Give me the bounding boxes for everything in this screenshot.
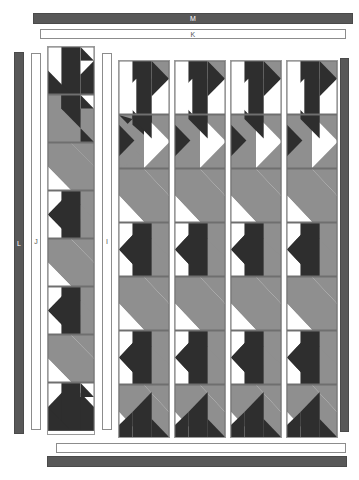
border-label-m: M <box>190 15 196 22</box>
block-cell[interactable] <box>231 61 281 115</box>
flying-geese-arrow-icon <box>287 277 337 330</box>
border-strip-j[interactable]: J <box>31 53 41 430</box>
block-cell[interactable] <box>48 287 94 335</box>
block-cell[interactable] <box>175 331 225 385</box>
block-cell[interactable] <box>48 191 94 239</box>
flying-geese-arrow-icon <box>287 385 337 438</box>
flying-geese-arrow-icon <box>175 115 225 168</box>
narrow-block-column[interactable] <box>47 46 95 435</box>
flying-geese-arrow-icon <box>119 115 169 168</box>
block-cell[interactable] <box>287 385 337 438</box>
block-cell[interactable] <box>119 331 169 385</box>
flying-geese-arrow-icon <box>119 169 169 222</box>
flying-geese-arrow-icon <box>175 385 225 438</box>
border-strip-i[interactable]: I <box>102 53 112 430</box>
flying-geese-arrow-icon <box>119 331 169 384</box>
block-medium-arrow-icon <box>48 143 94 190</box>
block-column-4[interactable] <box>286 60 338 438</box>
block-dark-arrow-left-icon <box>48 287 94 334</box>
block-medium-arrow-icon <box>48 239 94 286</box>
border-strip-m[interactable]: M <box>33 13 353 24</box>
flying-geese-arrow-icon <box>231 223 281 276</box>
flying-geese-arrow-icon <box>119 277 169 330</box>
flying-geese-arrow-icon <box>231 277 281 330</box>
flying-geese-arrow-icon <box>119 385 169 438</box>
block-cell[interactable] <box>287 331 337 385</box>
flying-geese-arrow-icon <box>287 331 337 384</box>
flying-geese-arrow-icon <box>287 61 337 114</box>
block-cell[interactable] <box>175 115 225 169</box>
block-cell[interactable] <box>231 277 281 331</box>
block-cell[interactable] <box>231 169 281 223</box>
block-dark-arrow-left-icon <box>48 191 94 238</box>
border-strip-bottom-inner[interactable] <box>56 443 346 453</box>
block-cell[interactable] <box>287 169 337 223</box>
flying-geese-arrow-icon <box>231 331 281 384</box>
block-cell[interactable] <box>231 331 281 385</box>
flying-geese-arrow-icon <box>231 169 281 222</box>
border-strip-bottom-outer[interactable] <box>47 456 347 467</box>
block-cell[interactable] <box>175 277 225 331</box>
border-label-l: L <box>17 240 21 247</box>
flying-geese-arrow-icon <box>287 169 337 222</box>
block-cell[interactable] <box>287 223 337 277</box>
block-cell[interactable] <box>48 143 94 191</box>
block-cell[interactable] <box>119 385 169 438</box>
block-cell[interactable] <box>175 385 225 438</box>
block-cell[interactable] <box>48 95 94 143</box>
border-label-k: K <box>191 31 196 38</box>
border-label-i: I <box>106 238 108 245</box>
quilt-diagram-canvas: M K L J I <box>0 0 359 480</box>
flying-geese-arrow-icon <box>175 277 225 330</box>
block-dark-arrow-up-icon <box>48 383 94 431</box>
block-cell[interactable] <box>287 115 337 169</box>
flying-geese-arrow-icon <box>231 385 281 438</box>
block-cell[interactable] <box>119 277 169 331</box>
flying-geese-arrow-icon <box>175 331 225 384</box>
flying-geese-arrow-icon <box>231 61 281 114</box>
block-cell[interactable] <box>119 223 169 277</box>
block-cell[interactable] <box>287 277 337 331</box>
flying-geese-arrow-icon <box>287 223 337 276</box>
flying-geese-arrow-icon <box>287 115 337 168</box>
block-column-1[interactable] <box>118 60 170 438</box>
flying-geese-arrow-icon <box>175 61 225 114</box>
block-cell[interactable] <box>175 169 225 223</box>
block-dark-arrow-up-icon <box>48 47 94 94</box>
border-strip-l[interactable]: L <box>14 52 24 434</box>
block-cell[interactable] <box>175 223 225 277</box>
block-cell[interactable] <box>48 383 94 431</box>
block-cell[interactable] <box>231 115 281 169</box>
flying-geese-arrow-icon <box>231 115 281 168</box>
block-cell[interactable] <box>231 385 281 438</box>
block-cell[interactable] <box>119 115 169 169</box>
block-cell[interactable] <box>119 169 169 223</box>
block-medium-arrow-icon <box>48 335 94 382</box>
block-cell[interactable] <box>287 61 337 115</box>
border-strip-k[interactable]: K <box>40 29 346 39</box>
block-cell[interactable] <box>119 61 169 115</box>
block-column-3[interactable] <box>230 60 282 438</box>
flying-geese-arrow-icon <box>119 61 169 114</box>
border-label-j: J <box>34 238 38 245</box>
flying-geese-arrow-icon <box>175 223 225 276</box>
block-column-2[interactable] <box>174 60 226 438</box>
block-cell[interactable] <box>231 223 281 277</box>
block-cell[interactable] <box>175 61 225 115</box>
block-cell[interactable] <box>48 47 94 95</box>
flying-geese-arrow-icon <box>175 169 225 222</box>
flying-geese-arrow-icon <box>119 223 169 276</box>
border-strip-right[interactable] <box>340 58 349 432</box>
block-medium-dark-split-icon <box>48 95 94 142</box>
block-cell[interactable] <box>48 335 94 383</box>
block-cell[interactable] <box>48 239 94 287</box>
